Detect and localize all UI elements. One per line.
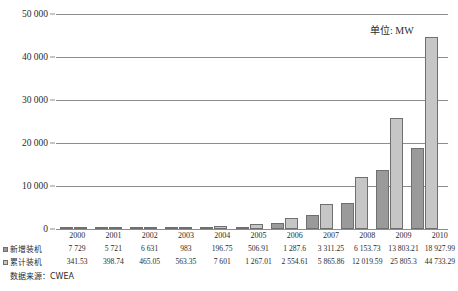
y-tick-mark-20000 [50,143,55,144]
y-axis: 0 10 000 20 000 30 000 40 000 50 000 [0,14,52,229]
value-cell: 12 019.59 [349,255,385,268]
data-table: 2000 2001 2002 2003 2004 2005 2006 2007 … [0,229,458,268]
value-cell: 7 601 [204,255,240,268]
bar-new-2007 [306,215,319,229]
y-tick-label-10000: 10 000 [22,181,48,191]
value-cell: 398.74 [95,255,131,268]
legend-label-new-capacity: 新增装机 [10,245,42,254]
value-cell: 506.91 [240,242,276,255]
bar-group-2008 [337,14,372,229]
year-cell: 2006 [277,229,313,242]
value-cell: 2 554.61 [277,255,313,268]
bar-group-2010 [407,14,442,229]
y-tick-mark-30000 [50,100,55,101]
right-tick-50000 [442,14,448,15]
year-cell: 2008 [349,229,385,242]
year-cell: 2002 [132,229,168,242]
chart-figure: 0 10 000 20 000 30 000 40 000 50 000 单位:… [0,0,458,291]
value-cell: 5 865.86 [313,255,349,268]
y-tick-mark-40000 [50,57,55,58]
bar-cumulative-2009 [390,118,403,229]
bar-cumulative-2006 [285,218,298,229]
year-cell: 2005 [240,229,276,242]
table-row-new-capacity: 新增装机 7 729 5 721 6 631 983 196.75 506.91… [0,242,458,255]
bar-group-2003 [161,14,196,229]
value-cell: 1 287.6 [277,242,313,255]
year-cell: 2010 [422,229,458,242]
year-cell: 2000 [59,229,95,242]
bar-group-2000 [56,14,91,229]
year-cell: 2004 [204,229,240,242]
legend-swatch-icon [3,247,8,252]
y-tick-label-40000: 40 000 [22,52,48,62]
table-corner-cell [0,229,59,242]
value-cell: 7 729 [59,242,95,255]
bar-group-2009 [372,14,407,229]
table-row-cumulative-capacity: 累计装机 341.53 398.74 465.05 563.35 7 601 1… [0,255,458,268]
legend-item-new-capacity: 新增装机 [0,242,59,255]
legend-item-cumulative-capacity: 累计装机 [0,255,59,268]
bar-group-2005 [231,14,266,229]
right-tick-40000 [442,57,448,58]
bar-group-2001 [91,14,126,229]
bar-group-2006 [267,14,302,229]
legend-label-cumulative-capacity: 累计装机 [10,258,42,267]
bar-new-2008 [341,203,354,229]
legend-swatch-icon [3,260,8,265]
value-cell: 341.53 [59,255,95,268]
value-cell: 1 267.01 [240,255,276,268]
value-cell: 6 153.73 [349,242,385,255]
bar-cumulative-2007 [320,204,333,229]
bar-group-2007 [302,14,337,229]
y-tick-label-20000: 20 000 [22,138,48,148]
value-cell: 3 311.25 [313,242,349,255]
value-cell: 465.05 [132,255,168,268]
unit-annotation: 单位: MW [370,22,414,37]
value-cell: 983 [168,242,204,255]
year-cell: 2009 [385,229,421,242]
y-tick-label-50000: 50 000 [22,9,48,19]
bar-new-2010 [411,148,424,229]
bar-group-2002 [126,14,161,229]
source-note: 数据来源：CWEA [10,270,74,281]
right-tick-20000 [442,143,448,144]
value-cell: 196.75 [204,242,240,255]
value-cell: 25 805.3 [385,255,421,268]
value-cell: 6 631 [132,242,168,255]
value-cell: 5 721 [95,242,131,255]
value-cell: 563.35 [168,255,204,268]
y-tick-label-30000: 30 000 [22,95,48,105]
bar-cumulative-2010 [425,37,438,229]
bar-cumulative-2008 [355,177,368,229]
value-cell: 44 733.29 [422,255,458,268]
bar-group-2004 [196,14,231,229]
year-cell: 2001 [95,229,131,242]
value-cell: 13 803.21 [385,242,421,255]
bar-series-container [56,14,442,229]
year-cell: 2003 [168,229,204,242]
y-tick-mark-10000 [50,186,55,187]
year-cell: 2007 [313,229,349,242]
right-tick-10000 [442,186,448,187]
y-tick-mark-50000 [50,14,55,15]
value-cell: 18 927.99 [422,242,458,255]
table-row-years: 2000 2001 2002 2003 2004 2005 2006 2007 … [0,229,458,242]
bar-new-2009 [376,170,389,229]
right-tick-30000 [442,100,448,101]
plot-area [56,14,442,229]
